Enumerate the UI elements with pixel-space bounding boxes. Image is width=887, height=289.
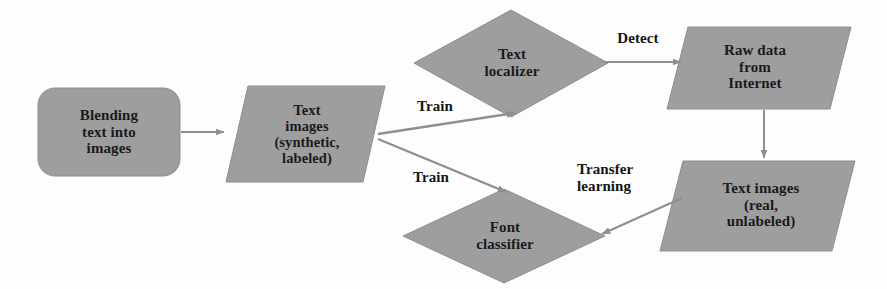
node-shape-raw-data[interactable] [667, 27, 851, 109]
edge-label-train-font: Train [396, 169, 466, 186]
node-shape-real-images[interactable] [660, 161, 855, 251]
edge-synthetic-to-text-localizer [378, 113, 515, 134]
node-shape-font-classifier[interactable] [403, 189, 605, 283]
flowchart-canvas [0, 0, 887, 289]
node-shape-blending[interactable] [38, 88, 180, 176]
node-shape-synthetic[interactable] [226, 86, 385, 182]
edge-label-train-localizer: Train [400, 98, 470, 115]
edge-label-detect: Detect [600, 30, 676, 47]
edge-label-transfer-learning: Transfer learning [577, 161, 673, 195]
flowchart-diagram: Blending text into images Text images (s… [0, 0, 887, 289]
